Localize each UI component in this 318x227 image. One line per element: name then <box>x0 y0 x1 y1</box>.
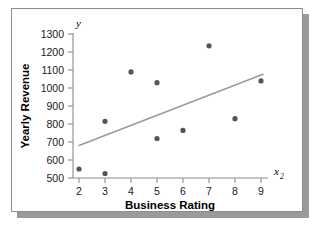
data-point <box>154 80 159 85</box>
x-tick-label-9: 9 <box>258 185 264 197</box>
x-axis-variable-label: x 2 <box>273 165 284 181</box>
data-point <box>232 116 237 121</box>
y-axis-group: 1300 1200 1100 1000 900 800 700 600 500 <box>41 28 73 184</box>
y-tick-label-800: 800 <box>46 118 64 130</box>
x-tick-label-7: 7 <box>206 185 212 197</box>
scatter-plot: 1300 1200 1100 1000 900 800 700 600 500 <box>12 9 304 213</box>
x-tick-label-2: 2 <box>76 185 82 197</box>
x-tick-label-5: 5 <box>154 185 160 197</box>
x-tick-label-8: 8 <box>232 185 238 197</box>
figure-root: 1300 1200 1100 1000 900 800 700 600 500 <box>0 0 318 227</box>
y-tick-label-500: 500 <box>46 172 64 184</box>
x-tick-label-3: 3 <box>102 185 108 197</box>
svg-text:x: x <box>273 165 279 177</box>
data-point <box>128 69 133 74</box>
x-tick-label-4: 4 <box>128 185 134 197</box>
x-axis-variable-subscript: 2 <box>280 172 284 181</box>
regression-trendline <box>79 74 263 145</box>
y-axis-title: Yearly Revenue <box>19 63 31 148</box>
data-point <box>76 166 81 171</box>
x-tick-label-6: 6 <box>180 185 186 197</box>
y-axis-ticks <box>68 34 73 178</box>
y-tick-label-1300: 1300 <box>41 28 65 40</box>
x-axis-group: 2 3 4 5 6 7 8 9 <box>73 178 268 197</box>
data-point <box>102 171 107 176</box>
data-point <box>102 119 107 124</box>
y-tick-label-1000: 1000 <box>41 82 65 94</box>
chart-card: 1300 1200 1100 1000 900 800 700 600 500 <box>11 8 303 212</box>
x-axis-ticks <box>79 178 261 183</box>
y-tick-label-700: 700 <box>46 136 64 148</box>
y-tick-label-900: 900 <box>46 100 64 112</box>
y-axis-variable-label: y <box>75 17 81 29</box>
data-point <box>258 78 263 83</box>
data-point <box>180 128 185 133</box>
data-point <box>206 43 211 48</box>
x-axis-title: Business Rating <box>125 199 215 211</box>
y-tick-label-1200: 1200 <box>41 46 65 58</box>
y-tick-label-600: 600 <box>46 154 64 166</box>
data-point <box>154 136 159 141</box>
y-tick-label-1100: 1100 <box>41 64 64 76</box>
